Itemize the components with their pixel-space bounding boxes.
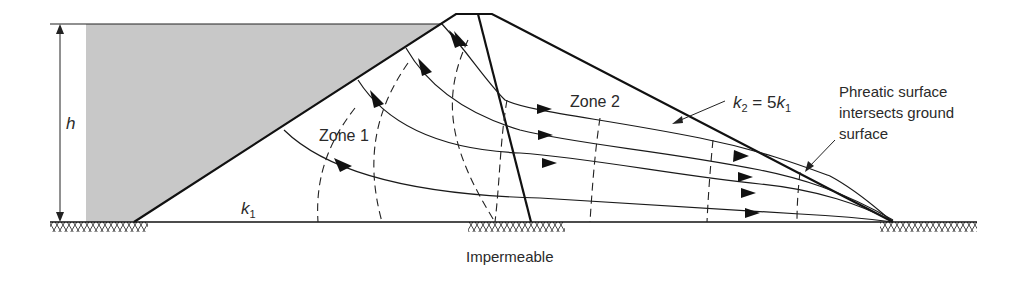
k1-label: k1 xyxy=(241,199,256,220)
phreatic-label-line2: intersects ground xyxy=(839,104,954,121)
ground-hatch-left xyxy=(50,222,148,232)
flow-line-1 xyxy=(442,24,893,222)
impermeable-label: Impermeable xyxy=(466,248,554,265)
phreatic-pointer xyxy=(805,140,835,172)
equipotential-6 xyxy=(707,140,713,222)
zone2-label: Zone 2 xyxy=(570,93,620,110)
phreatic-label-line3: surface xyxy=(839,125,888,142)
ground-hatch-middle xyxy=(468,222,565,232)
zone1-label: Zone 1 xyxy=(319,127,369,144)
height-dimension xyxy=(56,24,64,222)
flow-line-3 xyxy=(358,80,893,221)
equipotential-2 xyxy=(374,63,408,222)
ground-hatch-right xyxy=(880,222,977,232)
flow-arrowheads xyxy=(334,30,760,218)
k2-relation-label: k2 = 5k1 xyxy=(733,93,791,114)
flow-net-diagram: h Zone 1 Zone 2 k1 k2 = 5k1 Phreatic sur… xyxy=(0,0,1030,286)
equipotential-lines xyxy=(318,40,800,222)
flow-line-4 xyxy=(284,130,893,222)
height-label: h xyxy=(66,114,75,133)
equipotential-5 xyxy=(590,118,600,222)
phreatic-label-line1: Phreatic surface xyxy=(839,83,947,100)
reservoir-water xyxy=(86,24,442,222)
